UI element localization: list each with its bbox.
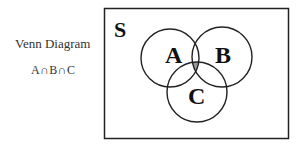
set-c-label: C: [188, 83, 205, 109]
set-b-label: B: [215, 42, 231, 68]
universe-label: S: [114, 17, 126, 42]
venn-diagram: S A B C: [0, 0, 305, 146]
set-a-label: A: [165, 42, 183, 68]
